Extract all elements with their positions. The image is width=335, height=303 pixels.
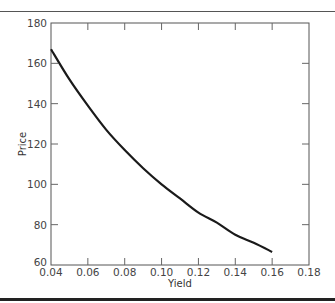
x-tick-label: 0.18 — [297, 266, 320, 278]
price-yield-chart: 0.040.060.080.100.120.140.160.18 6080100… — [0, 0, 335, 303]
x-tick-label: 0.06 — [76, 266, 100, 278]
y-tick-label: 180 — [27, 17, 47, 29]
bottom-rule — [0, 298, 335, 301]
y-tick-label: 100 — [27, 178, 47, 190]
price-curve — [51, 49, 272, 252]
x-tick-labels: 0.040.060.080.100.120.140.160.18 — [39, 266, 320, 278]
x-tick-label: 0.16 — [260, 266, 284, 278]
y-tick-label: 160 — [27, 57, 47, 69]
y-tick-label: 80 — [34, 219, 47, 231]
y-tick-labels: 6080100120140160180 — [27, 17, 47, 268]
y-tick-label: 120 — [27, 138, 47, 150]
x-tick-label: 0.14 — [224, 266, 248, 278]
x-tick-label: 0.08 — [113, 266, 136, 278]
plot-area — [51, 23, 309, 265]
plot-border — [51, 23, 309, 265]
axis-ticks — [51, 23, 309, 265]
y-tick-label: 60 — [34, 256, 47, 268]
x-axis-label: Yield — [167, 278, 192, 289]
y-tick-label: 140 — [27, 98, 47, 110]
x-tick-label: 0.10 — [150, 266, 173, 278]
y-axis-label: Price — [17, 132, 28, 156]
x-tick-label: 0.12 — [187, 266, 210, 278]
